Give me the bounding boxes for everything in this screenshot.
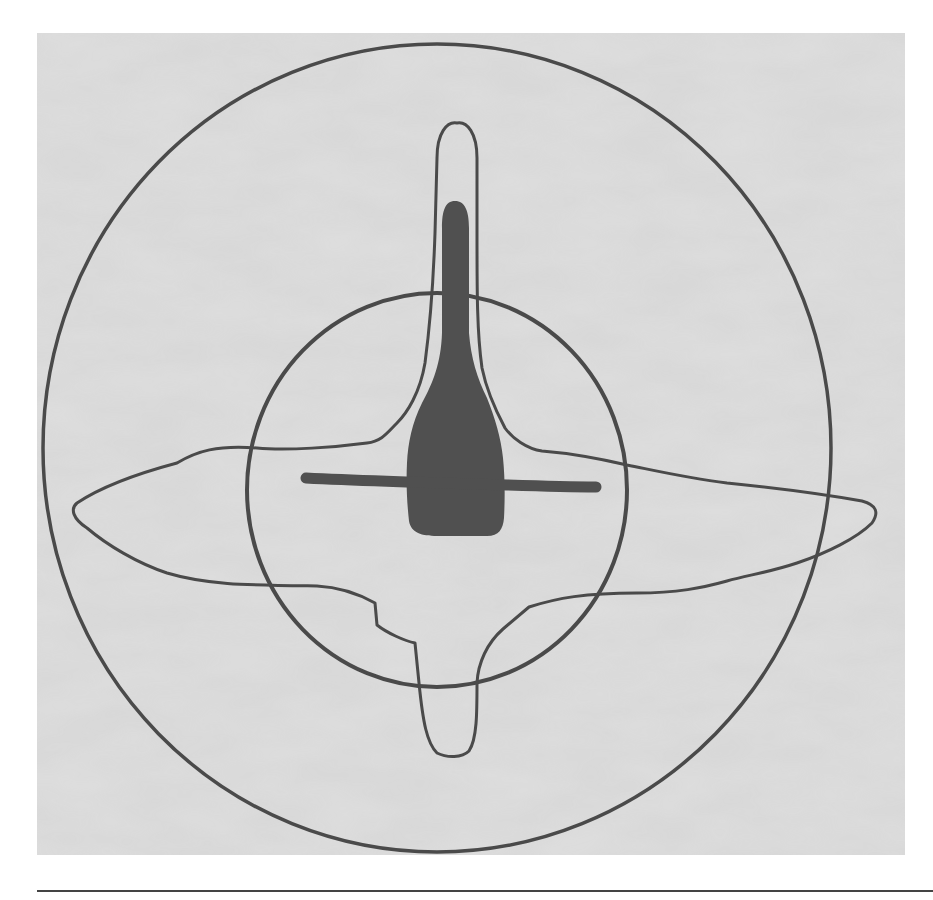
page-rule <box>37 890 933 892</box>
photograph <box>37 33 905 855</box>
diagram-drawing <box>37 33 905 855</box>
